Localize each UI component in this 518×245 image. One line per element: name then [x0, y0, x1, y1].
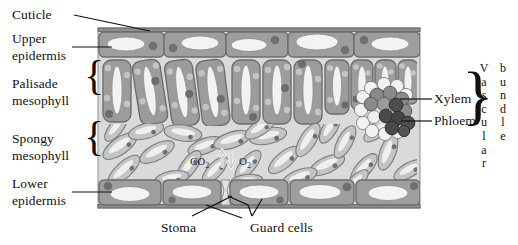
label-palisade-line1: Palisade: [12, 76, 58, 91]
label-o2: O2: [239, 155, 251, 170]
label-bundle-vertical: b u n d l e: [497, 62, 509, 144]
vertical-letter: V: [478, 62, 490, 76]
label-spongy-line1: Spongy: [12, 131, 54, 146]
vertical-letter: e: [497, 130, 509, 144]
palisade-cell: [325, 60, 349, 114]
co2-subscript: 2: [205, 161, 209, 170]
palisade-cell: [263, 60, 291, 124]
label-palisade-line2: mesophyll: [12, 93, 69, 108]
epidermis-cell: [288, 32, 354, 57]
label-stoma: Stoma: [161, 220, 196, 235]
vertical-letter: n: [497, 89, 509, 103]
vertical-letter: a: [478, 76, 490, 90]
label-lower-epidermis-line1: Lower: [12, 176, 48, 191]
vertical-letter: l: [478, 130, 490, 144]
o2-subscript: 2: [247, 161, 251, 170]
palisade-cell: [103, 60, 131, 122]
vertical-letter: u: [478, 116, 490, 130]
brace-spongy: {: [84, 115, 104, 157]
vertical-letter: s: [478, 89, 490, 103]
vertical-letter: r: [478, 157, 490, 171]
label-guard-cells: Guard cells: [250, 220, 313, 235]
lower-epidermis-layer: [99, 180, 420, 205]
vertical-letter: d: [497, 103, 509, 117]
o2-text: O: [239, 155, 247, 167]
label-spongy-line2: mesophyll: [12, 148, 69, 163]
brace-palisade: {: [84, 54, 104, 96]
palisade-cell: [232, 60, 260, 124]
label-cuticle: Cuticle: [12, 7, 52, 22]
co2-text: CO: [190, 155, 205, 167]
label-co2: CO2: [190, 155, 209, 170]
epidermis-cell: [226, 32, 288, 57]
upper-epidermis-layer: [99, 32, 420, 57]
epidermis-cell: [164, 32, 226, 57]
palisade-cell: [294, 60, 322, 124]
label-lower-epidermis-line2: epidermis: [12, 193, 66, 208]
epidermis-cell: [99, 32, 164, 57]
label-vascular-vertical: V a s c u l a r: [478, 62, 490, 171]
leaf-cross-section-figure: Cuticle Upper epidermis Palisade mesophy…: [0, 0, 518, 245]
vertical-letter: b: [497, 62, 509, 76]
label-upper-epidermis-line1: Upper: [12, 31, 46, 46]
guard-cell: [163, 180, 221, 205]
label-upper-epidermis-line2: epidermis: [12, 48, 66, 63]
vertical-letter: c: [478, 103, 490, 117]
epidermis-cell: [354, 32, 420, 57]
epidermis-cell: [356, 180, 420, 205]
epidermis-cell: [290, 180, 354, 205]
vertical-letter: l: [497, 116, 509, 130]
vertical-letter: u: [497, 76, 509, 90]
vertical-letter: a: [478, 144, 490, 158]
